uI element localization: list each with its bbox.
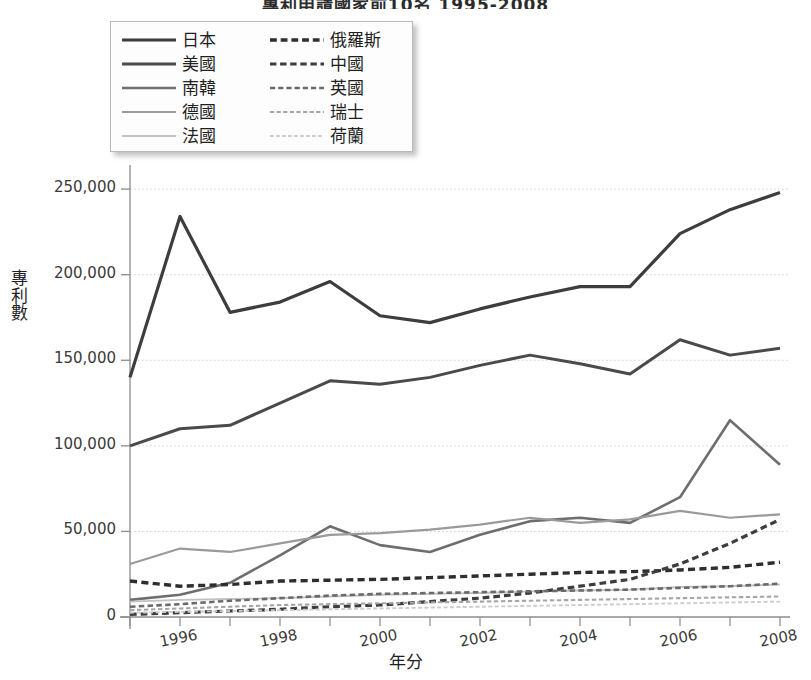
- data-series-group: [130, 193, 780, 615]
- legend-swatch-line: [269, 130, 325, 142]
- series-line-2: [130, 420, 780, 600]
- legend-item-right-1[interactable]: 中國: [269, 52, 381, 76]
- y-tick-label: 200,000: [26, 264, 116, 282]
- tick-marks: [121, 189, 780, 626]
- y-tick-label: 50,000: [26, 520, 116, 538]
- legend-swatch-line: [269, 34, 325, 46]
- patent-line-chart: 專利申請國家前10名 1995-2008 專利數 年分 050,000100,0…: [0, 0, 811, 680]
- legend-item-left-0[interactable]: 日本: [121, 28, 216, 52]
- legend-swatch-line: [121, 34, 177, 46]
- legend-column-left: 日本美國南韓德國法國: [121, 28, 216, 148]
- legend-item-left-3[interactable]: 德國: [121, 100, 216, 124]
- legend-item-left-2[interactable]: 南韓: [121, 76, 216, 100]
- legend-label: 德國: [182, 104, 216, 121]
- legend-label: 日本: [182, 32, 216, 49]
- legend-item-left-4[interactable]: 法國: [121, 124, 216, 148]
- legend-label: 瑞士: [330, 104, 364, 121]
- legend-swatch-line: [269, 58, 325, 70]
- legend-swatch-line: [121, 130, 177, 142]
- legend-item-right-3[interactable]: 瑞士: [269, 100, 381, 124]
- legend-swatch-line: [121, 106, 177, 118]
- legend-item-right-0[interactable]: 俄羅斯: [269, 28, 381, 52]
- legend-column-right: 俄羅斯中國英國瑞士荷蘭: [269, 28, 381, 148]
- legend-swatch-line: [269, 106, 325, 118]
- legend-label: 法國: [182, 128, 216, 145]
- legend-label: 英國: [330, 80, 364, 97]
- legend-box: 日本美國南韓德國法國 俄羅斯中國英國瑞士荷蘭: [110, 21, 413, 152]
- y-tick-label: 0: [26, 606, 116, 624]
- y-tick-label: 100,000: [26, 435, 116, 453]
- legend-swatch-line: [269, 82, 325, 94]
- legend-swatch-line: [121, 82, 177, 94]
- legend-label: 南韓: [182, 80, 216, 97]
- series-line-0: [130, 193, 780, 378]
- legend-item-left-1[interactable]: 美國: [121, 52, 216, 76]
- series-line-3: [130, 511, 780, 564]
- legend-item-right-4[interactable]: 荷蘭: [269, 124, 381, 148]
- gridlines: [130, 189, 788, 531]
- legend-label: 美國: [182, 56, 216, 73]
- series-line-9: [130, 602, 780, 613]
- y-tick-label: 150,000: [26, 349, 116, 367]
- series-line-1: [130, 340, 780, 446]
- legend-label: 中國: [330, 56, 364, 73]
- legend-label: 俄羅斯: [330, 32, 381, 49]
- legend-item-right-2[interactable]: 英國: [269, 76, 381, 100]
- legend-label: 荷蘭: [330, 128, 364, 145]
- x-axis-title: 年分: [0, 648, 811, 673]
- legend-swatch-line: [121, 58, 177, 70]
- y-tick-label: 250,000: [26, 178, 116, 196]
- axis-lines: [120, 165, 790, 629]
